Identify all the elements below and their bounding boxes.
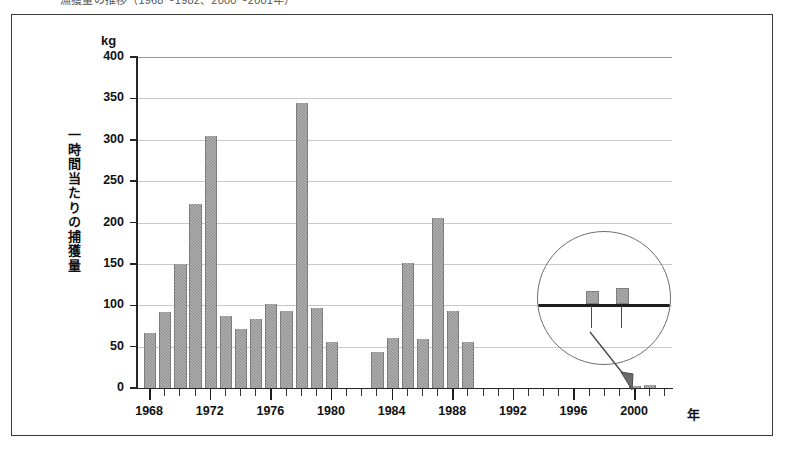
x-tick-label: 1984 — [368, 404, 416, 418]
x-axis-spine — [136, 388, 673, 390]
x-tick-minor — [649, 389, 650, 396]
gridline — [137, 140, 672, 141]
bar — [311, 308, 323, 388]
x-tick-minor — [498, 389, 499, 396]
x-tick-minor — [422, 389, 423, 396]
x-tick-minor — [467, 389, 468, 396]
x-tick-minor — [589, 389, 590, 396]
y-tick-mark — [130, 305, 137, 307]
inset-bar — [586, 291, 599, 304]
gridline — [137, 181, 672, 182]
y-tick-label: 150 — [88, 256, 124, 270]
bar — [174, 264, 186, 388]
x-tick-minor — [361, 389, 362, 396]
bar — [265, 304, 277, 388]
y-tick-label: 100 — [88, 297, 124, 311]
x-tick-minor — [483, 389, 484, 396]
figure-caption: 漁獲量の推移（1968〜1982、2000〜2001年） — [60, 0, 295, 7]
x-tick-minor — [558, 389, 559, 396]
x-tick-label: 1980 — [307, 404, 355, 418]
bar — [402, 263, 414, 388]
y-tick-mark — [130, 346, 137, 348]
bar — [417, 339, 429, 388]
bar — [189, 204, 201, 388]
y-tick-mark — [130, 263, 137, 265]
x-tick-major — [634, 389, 636, 400]
y-tick-mark — [130, 98, 137, 100]
x-tick-minor — [346, 389, 347, 396]
x-tick-minor — [619, 389, 620, 396]
x-axis-title: 年 — [687, 404, 700, 423]
x-tick-minor — [240, 389, 241, 396]
x-tick-minor — [179, 389, 180, 396]
x-tick-minor — [164, 389, 165, 396]
inset-tick-mark — [621, 306, 622, 328]
x-tick-major — [392, 389, 394, 400]
x-tick-minor — [255, 389, 256, 396]
inset-tick-mark — [591, 306, 592, 328]
x-tick-minor — [286, 389, 287, 396]
x-tick-label: 1968 — [125, 404, 173, 418]
bar — [326, 342, 338, 388]
x-tick-major — [331, 389, 333, 400]
y-tick-label: 50 — [88, 339, 124, 353]
x-tick-minor — [195, 389, 196, 396]
bar — [250, 319, 262, 389]
y-tick-label: 300 — [88, 132, 124, 146]
bar — [205, 136, 217, 388]
y-tick-mark — [130, 180, 137, 182]
bar — [235, 329, 247, 388]
y-tick-label: 200 — [88, 215, 124, 229]
bar — [387, 338, 399, 388]
x-tick-minor — [301, 389, 302, 396]
bar — [371, 352, 383, 388]
x-tick-major — [210, 389, 212, 400]
y-tick-mark — [130, 222, 137, 224]
bar — [144, 333, 156, 388]
y-tick-label: 0 — [88, 380, 124, 394]
inset-baseline — [538, 304, 670, 307]
x-tick-major — [270, 389, 272, 400]
x-tick-label: 1992 — [489, 404, 537, 418]
x-tick-minor — [407, 389, 408, 396]
y-tick-label: 250 — [88, 173, 124, 187]
x-tick-minor — [437, 389, 438, 396]
x-tick-major — [573, 389, 575, 400]
x-tick-major — [513, 389, 515, 400]
x-tick-minor — [664, 389, 665, 396]
y-tick-mark — [130, 387, 137, 389]
x-tick-label: 1972 — [186, 404, 234, 418]
gridline — [137, 223, 672, 224]
y-axis-unit-label: kg — [101, 33, 116, 48]
inset-bar — [616, 288, 629, 304]
x-tick-minor — [528, 389, 529, 396]
x-tick-minor — [376, 389, 377, 396]
bar — [447, 311, 459, 388]
figure-caption-strip: 漁獲量の推移（1968〜1982、2000〜2001年） — [0, 0, 791, 9]
y-tick-mark — [130, 56, 137, 58]
y-tick-label: 350 — [88, 90, 124, 104]
y-axis-title: 一時間当たりの捕獲量 — [60, 128, 80, 273]
x-tick-major — [149, 389, 151, 400]
x-tick-label: 1988 — [428, 404, 476, 418]
bar — [159, 312, 171, 388]
bar — [220, 316, 232, 388]
x-tick-label: 1976 — [246, 404, 294, 418]
bar — [296, 103, 308, 388]
y-tick-mark — [130, 139, 137, 141]
x-tick-minor — [604, 389, 605, 396]
gridline — [137, 98, 672, 99]
magnifier-inset — [537, 231, 671, 365]
x-tick-minor — [543, 389, 544, 396]
y-tick-label: 400 — [88, 49, 124, 63]
bar — [280, 311, 292, 388]
x-tick-label: 2000 — [610, 404, 658, 418]
x-tick-major — [452, 389, 454, 400]
x-tick-label: 1996 — [549, 404, 597, 418]
x-tick-minor — [316, 389, 317, 396]
gridline — [137, 57, 672, 58]
bar — [432, 218, 444, 388]
x-tick-minor — [225, 389, 226, 396]
bar — [462, 342, 474, 388]
